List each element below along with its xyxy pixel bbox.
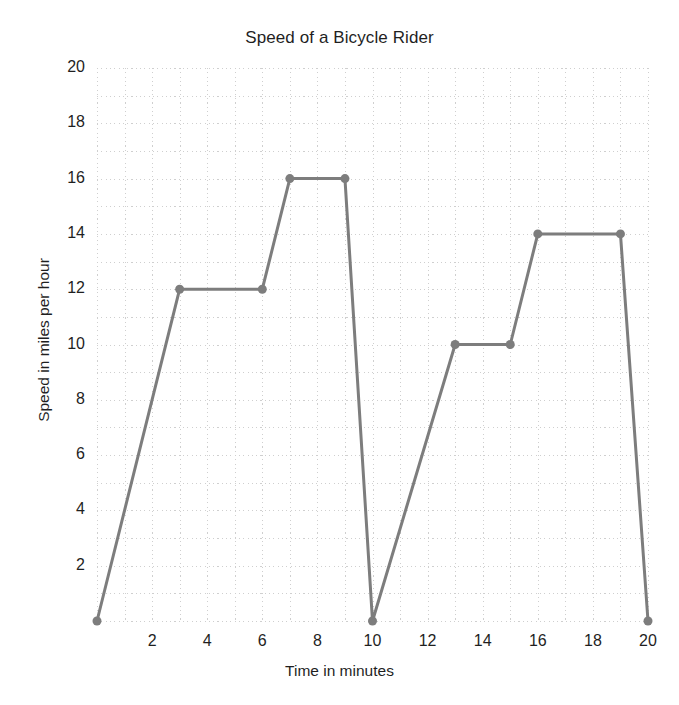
data-point-marker xyxy=(285,174,294,183)
data-point-marker xyxy=(93,617,102,626)
chart-container: Speed of a Bicycle Rider Speed in miles … xyxy=(0,0,679,705)
data-point-marker xyxy=(506,340,515,349)
data-point-marker xyxy=(175,285,184,294)
grid-lines xyxy=(97,68,649,622)
data-point-marker xyxy=(533,229,542,238)
plot-area xyxy=(0,0,679,705)
data-point-marker xyxy=(258,285,267,294)
data-point-markers xyxy=(93,174,653,625)
data-point-marker xyxy=(644,617,653,626)
data-point-marker xyxy=(340,174,349,183)
data-point-marker xyxy=(616,229,625,238)
data-point-marker xyxy=(451,340,460,349)
data-point-marker xyxy=(368,617,377,626)
